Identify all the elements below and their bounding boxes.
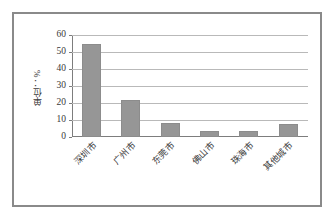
x-tick-label-foshan: 佛山市 xyxy=(191,141,216,166)
bar-chart: 单位：% 60 50 40 30 20 10 0 xyxy=(14,14,320,205)
x-tick-label-dongguan: 东莞市 xyxy=(151,141,176,166)
x-label-slot: 其他城市 xyxy=(269,138,308,198)
bar-slot xyxy=(190,35,229,137)
bars-layer xyxy=(72,35,308,137)
plot-region: 60 50 40 30 20 10 0 xyxy=(72,35,308,137)
x-label-slot: 广州市 xyxy=(111,138,150,198)
bar-foshan[interactable] xyxy=(200,131,219,137)
bar-dongguan[interactable] xyxy=(161,123,180,137)
bar-zhuhai[interactable] xyxy=(239,131,258,137)
bar-other-cities[interactable] xyxy=(279,124,298,137)
bar-shenzhen[interactable] xyxy=(82,44,101,138)
x-axis-labels: 深圳市 广州市 东莞市 佛山市 珠海市 其他城市 xyxy=(72,138,308,198)
y-tick-label-60: 60 xyxy=(57,30,67,40)
x-label-slot: 东莞市 xyxy=(151,138,190,198)
y-tick-label-10: 10 xyxy=(57,115,67,125)
x-label-slot: 佛山市 xyxy=(190,138,229,198)
y-tick-label-20: 20 xyxy=(57,98,67,108)
bar-slot xyxy=(269,35,308,137)
bar-slot xyxy=(72,35,111,137)
bar-slot xyxy=(151,35,190,137)
y-axis-title: 单位：% xyxy=(30,60,44,116)
chart-figure-frame: 单位：% 60 50 40 30 20 10 0 xyxy=(12,12,322,207)
x-label-slot: 深圳市 xyxy=(72,138,111,198)
x-tick-label-shenzhen: 深圳市 xyxy=(73,141,98,166)
x-tick-label-zhuhai: 珠海市 xyxy=(230,141,255,166)
y-tick-label-50: 50 xyxy=(57,47,67,57)
x-tick-label-guangzhou: 广州市 xyxy=(112,141,137,166)
y-tick-label-30: 30 xyxy=(57,81,67,91)
y-tick-label-0: 0 xyxy=(61,132,66,142)
y-tick-label-40: 40 xyxy=(57,64,67,74)
x-label-slot: 珠海市 xyxy=(229,138,268,198)
bar-slot xyxy=(229,35,268,137)
bar-slot xyxy=(111,35,150,137)
bar-guangzhou[interactable] xyxy=(121,100,140,137)
